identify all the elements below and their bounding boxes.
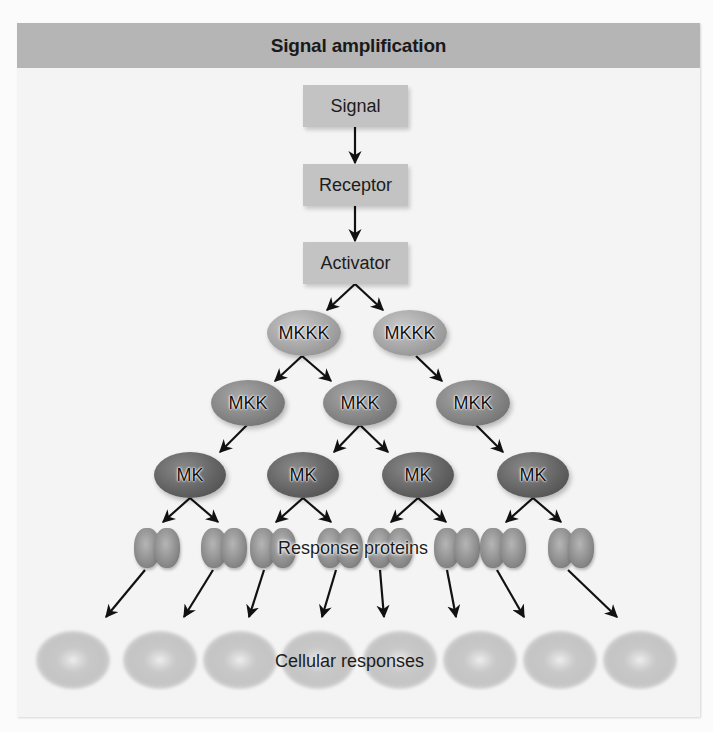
arrow-mk2-protein-4 <box>303 498 331 522</box>
mk-node-3: MK <box>382 452 454 498</box>
mkk-label: MKK <box>228 393 267 414</box>
arrow-mkkk2-mkk3 <box>416 356 442 381</box>
arrow-mk3-protein-6 <box>418 498 446 522</box>
arrow-mk4-protein-8 <box>533 498 561 522</box>
mkk-label: MKK <box>340 393 379 414</box>
receptor-label: Receptor <box>319 175 392 196</box>
response-protein-8 <box>548 528 594 568</box>
arrow-protein-cell-7 <box>497 570 524 617</box>
receptor-box: Receptor <box>303 164 408 206</box>
arrow-protein-cell-3 <box>249 570 264 617</box>
arrow-protein-cell-5 <box>380 570 384 617</box>
arrow-mkk2-mk2 <box>334 425 360 452</box>
cellular-response-2 <box>123 631 197 689</box>
arrow-protein-cell-2 <box>184 570 213 617</box>
arrow-mkk2-mk3 <box>360 425 388 452</box>
arrow-mk1-protein-2 <box>190 498 218 522</box>
signal-label: Signal <box>330 96 380 117</box>
activator-box: Activator <box>303 242 408 284</box>
mk-node-1: MK <box>154 452 226 498</box>
cellular-responses-label: Cellular responses <box>275 651 424 672</box>
mk-label: MK <box>405 465 432 486</box>
arrow-mk2-protein-3 <box>276 498 303 522</box>
cellular-response-1 <box>36 631 110 689</box>
mkk-node-2: MKK <box>323 380 397 426</box>
arrow-mkk1-mk1 <box>220 425 247 452</box>
arrow-mkkk1-mkk1 <box>275 356 302 381</box>
response-protein-7 <box>480 528 526 568</box>
mkkk-label: MKKK <box>384 323 435 344</box>
mk-node-4: MK <box>497 452 569 498</box>
response-protein-2 <box>201 528 247 568</box>
mkkk-label: MKKK <box>278 323 329 344</box>
mkkk-node-1: MKKK <box>267 310 341 356</box>
response-protein-6 <box>434 528 480 568</box>
arrow-mk3-protein-5 <box>391 498 418 522</box>
arrow-mkkk1-mkk2 <box>302 356 331 381</box>
activator-label: Activator <box>320 253 390 274</box>
arrow-mkk3-mk4 <box>476 425 503 452</box>
cellular-response-6 <box>443 631 517 689</box>
signal-box: Signal <box>303 85 408 127</box>
mk-label: MK <box>290 465 317 486</box>
cellular-response-3 <box>203 631 277 689</box>
mkk-label: MKK <box>453 393 492 414</box>
cellular-response-8 <box>603 631 677 689</box>
arrow-activator-mkkk-1 <box>327 284 355 310</box>
cellular-response-7 <box>523 631 597 689</box>
mk-label: MK <box>177 465 204 486</box>
response-proteins-label: Response proteins <box>278 538 428 559</box>
mk-label: MK <box>520 465 547 486</box>
arrow-mk4-protein-7 <box>506 498 533 522</box>
arrow-protein-cell-4 <box>322 570 336 617</box>
arrow-protein-cell-8 <box>568 570 617 617</box>
mkk-node-3: MKK <box>436 380 510 426</box>
response-protein-1 <box>134 528 180 568</box>
arrow-protein-cell-1 <box>106 570 145 617</box>
mkkk-node-2: MKKK <box>373 310 447 356</box>
mkk-node-1: MKK <box>211 380 285 426</box>
arrow-activator-mkkk-2 <box>355 284 383 310</box>
mk-node-2: MK <box>267 452 339 498</box>
arrow-mk1-protein-1 <box>163 498 190 522</box>
arrow-protein-cell-6 <box>447 570 456 617</box>
